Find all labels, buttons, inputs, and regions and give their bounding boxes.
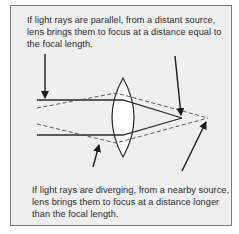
arrow-to-far-focus-icon (182, 122, 206, 171)
arrow-to-near-focus-icon (175, 56, 181, 115)
arrow-to-diverging-ray-icon (93, 145, 99, 167)
caption-diverging-rays: If light rays are diverging, from a near… (32, 184, 232, 220)
lens-icon (112, 78, 134, 157)
